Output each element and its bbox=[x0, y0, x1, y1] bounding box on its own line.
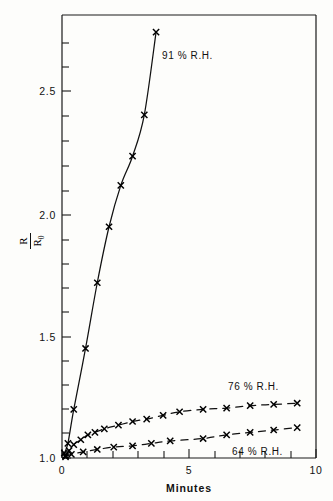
figure-container: 1.0 1.5 2.0 2.5 0 5 10 Minutes 91 % R.H.… bbox=[0, 0, 333, 501]
data-point-marker bbox=[294, 424, 300, 430]
data-point-marker bbox=[118, 182, 124, 188]
data-point-marker bbox=[101, 426, 107, 432]
y-axis-title-denominator: R0 bbox=[32, 235, 46, 246]
series-label-64: 64 % R.H. bbox=[232, 446, 283, 457]
data-point-marker bbox=[92, 429, 98, 435]
data-point-marker bbox=[71, 442, 77, 448]
series-layer bbox=[61, 29, 300, 460]
x-tick-label-0: 0 bbox=[59, 464, 66, 476]
x-tick-label-10: 10 bbox=[309, 464, 322, 476]
data-point-marker bbox=[78, 437, 84, 443]
y-tick-label-1-0: 1.0 bbox=[39, 452, 56, 464]
y-tick-label-1-5: 1.5 bbox=[39, 331, 56, 343]
y-axis-ticks bbox=[62, 43, 71, 458]
series-line-0 bbox=[64, 32, 156, 453]
series-label-91: 91 % R.H. bbox=[162, 50, 213, 61]
x-tick-labels: 0 5 10 bbox=[59, 464, 323, 476]
y-tick-labels: 1.0 1.5 2.0 2.5 bbox=[39, 85, 56, 464]
x-tick-label-5: 5 bbox=[186, 464, 193, 476]
data-point-marker bbox=[85, 432, 91, 438]
y-axis-title-numerator: R bbox=[18, 237, 30, 244]
x-axis-title: Minutes bbox=[166, 482, 212, 494]
series-label-76: 76 % R.H. bbox=[228, 381, 279, 392]
y-tick-label-2-5: 2.5 bbox=[39, 85, 56, 97]
y-axis-title: R R0 bbox=[14, 218, 50, 264]
data-point-marker bbox=[129, 153, 135, 159]
